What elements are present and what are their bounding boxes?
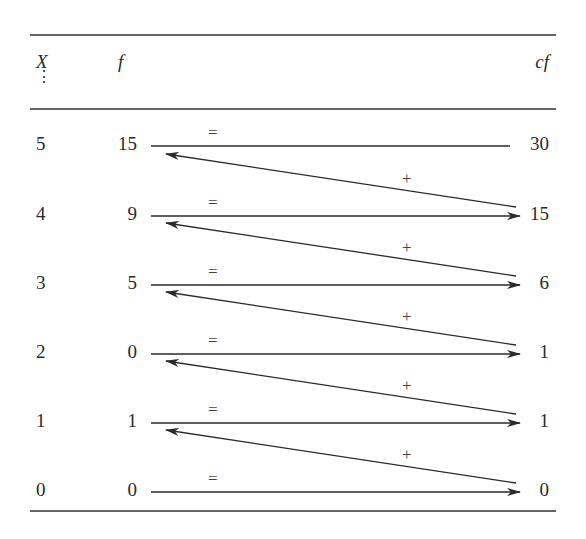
equal-sign-row-3: = — [208, 263, 218, 280]
plus-sign-4: + — [402, 377, 412, 394]
f-value-row-2: 9 — [100, 204, 137, 223]
plus-sign-1: + — [402, 170, 412, 187]
x-value-row-1: 5 — [36, 134, 46, 153]
cf-value-row-4: 1 — [510, 342, 549, 361]
plus-arrow-2 — [166, 223, 516, 276]
f-value-row-3: 5 — [100, 273, 137, 292]
cf-value-row-6: 0 — [510, 480, 549, 499]
f-value-row-5: 1 — [100, 411, 137, 430]
cf-value-row-2: 15 — [510, 204, 549, 223]
equal-sign-row-2: = — [208, 194, 218, 211]
x-value-row-5: 1 — [36, 411, 46, 430]
x-value-row-6: 0 — [36, 480, 46, 499]
f-value-row-4: 0 — [100, 342, 137, 361]
cumulative-frequency-diagram — [0, 0, 586, 539]
x-value-row-2: 4 — [36, 204, 46, 223]
plus-sign-5: + — [402, 446, 412, 463]
equal-sign-row-5: = — [208, 401, 218, 418]
plus-arrow-5 — [166, 430, 516, 483]
x-value-row-4: 2 — [36, 342, 46, 361]
equal-sign-row-6: = — [208, 470, 218, 487]
equal-sign-row-4: = — [208, 332, 218, 349]
plus-arrow-3 — [166, 292, 516, 345]
plus-arrow-4 — [166, 361, 516, 414]
equal-sign-row-1: = — [208, 124, 218, 141]
plus-arrow-1 — [166, 154, 516, 207]
f-value-row-1: 15 — [100, 134, 137, 153]
cf-value-row-5: 1 — [510, 411, 549, 430]
x-value-row-3: 3 — [36, 273, 46, 292]
plus-sign-3: + — [402, 308, 412, 325]
f-value-row-6: 0 — [100, 480, 137, 499]
cf-value-row-3: 6 — [510, 273, 549, 292]
plus-sign-2: + — [402, 239, 412, 256]
cf-value-row-1: 30 — [510, 134, 549, 153]
